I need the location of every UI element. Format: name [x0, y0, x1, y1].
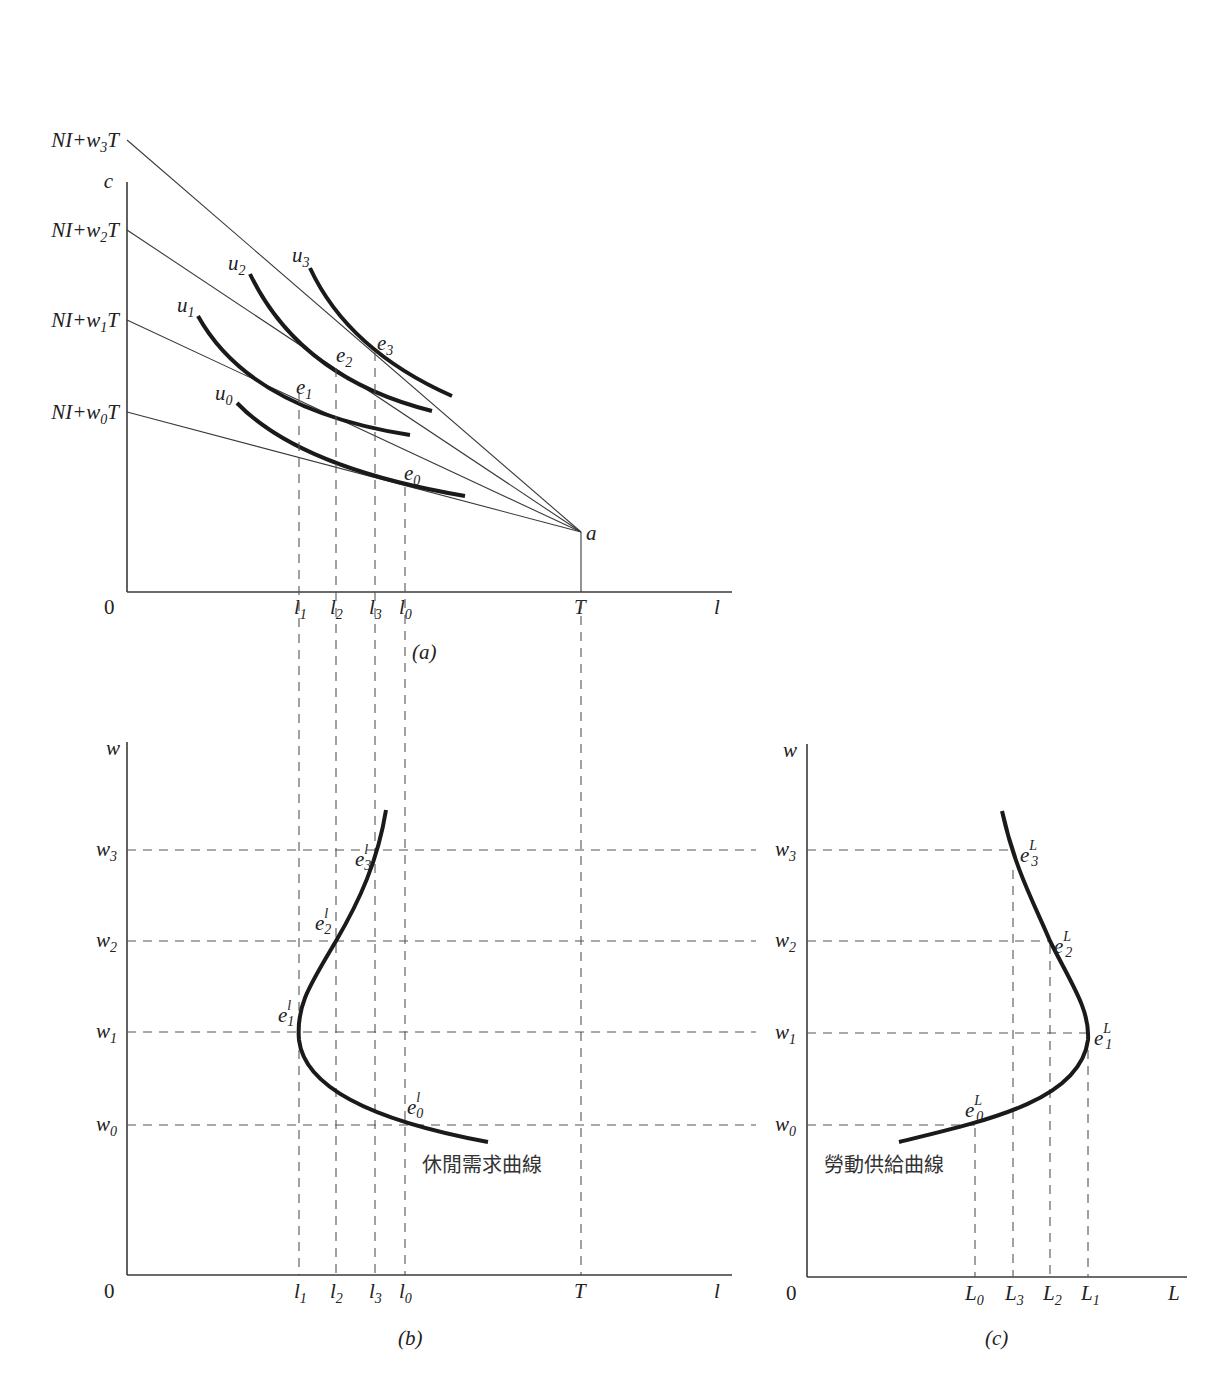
panel-b-tick-w1: w1 [96, 1019, 117, 1046]
intercept-label-w2: NI+w2T [50, 218, 120, 245]
point-e3-L: eL3 [1020, 838, 1038, 869]
panel-c-origin: 0 [786, 1281, 797, 1305]
panel-c-x-label: L [1167, 1281, 1180, 1305]
panel-b-y-label: w [106, 736, 120, 760]
panel-b-tick-l0: l0 [399, 1279, 412, 1306]
intercept-label-w0: NI+w0T [50, 400, 120, 427]
panel-b-caption: (b) [398, 1326, 423, 1350]
intercept-label-w1: NI+w1T [50, 308, 120, 335]
u3-label: u3 [292, 243, 310, 270]
panel-a-caption: (a) [412, 640, 437, 664]
panel-a: c 0 l NI+w3T NI+w2T NI+w1T NI+w0T a T u3… [50, 128, 732, 664]
panel-c-tick-L1: L1 [1080, 1281, 1100, 1308]
panel-b: w 0 l w3 w2 w1 w0 el3 el2 el1 el0 休閒需求曲線… [96, 736, 756, 1350]
panel-a-y-label: c [104, 169, 114, 193]
e2-label: e2 [336, 343, 352, 370]
panel-b-tick-l1: l1 [294, 1279, 307, 1306]
point-e2-l: el2 [315, 906, 331, 937]
point-e1-L: eL1 [1094, 1021, 1112, 1052]
point-e0-L: eL0 [965, 1093, 983, 1124]
panel-b-tick-w0: w0 [96, 1112, 117, 1139]
budget-line-w1 [127, 320, 581, 532]
panel-a-origin: 0 [104, 595, 115, 619]
e0-label: e0 [404, 461, 420, 488]
labor-leisure-diagram: c 0 l NI+w3T NI+w2T NI+w1T NI+w0T a T u3… [0, 0, 1223, 1386]
labor-supply-curve-label: 勞動供給曲線 [824, 1153, 944, 1177]
budget-line-w3 [127, 140, 581, 532]
panel-c-tick-w3: w3 [775, 837, 796, 864]
panel-c-tick-w2: w2 [775, 928, 796, 955]
panel-c-tick-w1: w1 [775, 1020, 796, 1047]
panel-c: w 0 L w3 w2 w1 w0 eL3 eL2 eL1 eL0 勞動供給曲線… [775, 738, 1187, 1350]
u0-label: u0 [215, 381, 233, 408]
e3-label: e3 [377, 331, 393, 358]
panel-b-tick-w3: w3 [96, 837, 117, 864]
point-e0-l: el0 [407, 1090, 423, 1121]
panel-b-tick-l2: l2 [330, 1279, 343, 1306]
panel-b-x-label: l [714, 1279, 720, 1303]
panel-b-tick-w2: w2 [96, 928, 117, 955]
indifference-curve-u0 [237, 403, 465, 496]
panel-b-origin: 0 [104, 1279, 115, 1303]
intercept-label-w3: NI+w3T [50, 128, 120, 155]
budget-line-w0 [127, 412, 581, 532]
panel-c-y-label: w [783, 738, 797, 762]
panel-a-tick-l1: l1 [294, 595, 307, 622]
e1-label: e1 [296, 375, 312, 402]
u2-label: u2 [228, 251, 246, 278]
panel-b-tick-l3: l3 [369, 1279, 382, 1306]
panel-c-tick-L3: L3 [1004, 1281, 1024, 1308]
point-e1-l: el1 [278, 998, 294, 1029]
leisure-demand-curve [299, 810, 488, 1142]
panel-c-caption: (c) [985, 1326, 1008, 1350]
leisure-demand-curve-label: 休閒需求曲線 [422, 1153, 542, 1177]
u1-label: u1 [177, 293, 195, 320]
point-e3-l: el3 [355, 842, 371, 873]
panel-a-x-label: l [714, 595, 720, 619]
kink-label-a: a [586, 521, 597, 545]
point-e2-L: eL2 [1054, 929, 1072, 960]
panel-c-tick-L2: L2 [1042, 1281, 1062, 1308]
panel-b-T-label: T [574, 1279, 587, 1303]
panel-c-tick-w0: w0 [775, 1112, 796, 1139]
panel-c-tick-L0: L0 [964, 1281, 984, 1308]
labor-supply-curve [899, 811, 1088, 1142]
